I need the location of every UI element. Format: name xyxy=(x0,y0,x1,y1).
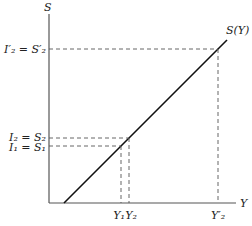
savings-investment-diagram: S Y S(Y) I′₂ = S′₂ Y′₂ I₂ = S₂ Y₂ I₁ = S… xyxy=(0,0,252,226)
x-tick-label-y2: Y₂ xyxy=(125,209,137,222)
x-tick-label-y2prime: Y′₂ xyxy=(211,209,225,222)
y-axis-label: S xyxy=(44,1,52,14)
x-tick-label-y1: Y₁ xyxy=(113,209,125,222)
savings-function-line xyxy=(64,40,227,203)
level-label-i2prime: I′₂ = S′₂ xyxy=(3,43,46,56)
savings-function-label: S(Y) xyxy=(226,24,249,37)
level-label-i1: I₁ = S₁ xyxy=(8,141,46,154)
x-axis-label: Y xyxy=(240,197,249,210)
